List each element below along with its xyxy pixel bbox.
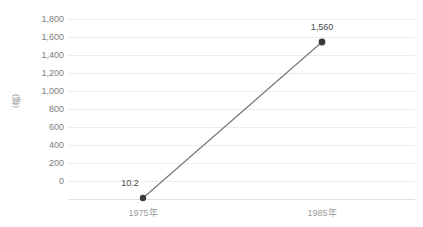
data-point-label: 10.2 (100, 178, 160, 188)
data-point-marker[interactable] (140, 195, 146, 201)
plot-area: 10.2 1,560 (0, 0, 423, 227)
line-chart: （幅） 1,800 1,600 1,400 1,200 1,000 800 60… (0, 0, 423, 227)
series-line-group (0, 0, 423, 227)
data-point-marker[interactable] (319, 39, 326, 46)
data-point-label: 1,560 (292, 22, 352, 32)
x-tick-label: 1985年 (282, 206, 362, 219)
x-tick-label: 1975年 (103, 206, 183, 219)
series-line (143, 42, 322, 198)
